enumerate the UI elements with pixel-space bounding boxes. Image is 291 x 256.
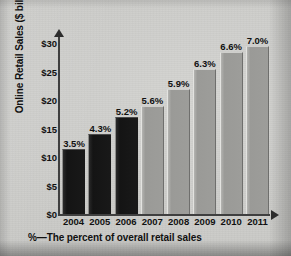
y-tick-label: $25 <box>27 66 57 77</box>
bar-2011: 7.0% <box>246 46 269 214</box>
x-tick-label: 2008 <box>167 216 190 227</box>
y-axis-tick-labels: $30 $25 $20 $15 $10 $5 $0 <box>25 0 57 256</box>
x-tick-label: 2005 <box>88 216 111 227</box>
y-axis-arrow-icon <box>54 29 64 37</box>
bar-data-label: 5.9% <box>168 78 190 89</box>
bar-data-label: 5.6% <box>142 95 164 106</box>
bar-2009: 6.3% <box>193 69 216 214</box>
chart-figure: Online Retail Sales ($ billions) $30 $25… <box>0 0 291 256</box>
bar-2004: 3.5% <box>62 149 85 215</box>
bar-data-label: 6.6% <box>220 41 242 52</box>
bar-data-label: 5.2% <box>116 106 138 117</box>
bar-series: 3.5% 4.3% 5.2% 5.6% 5.9% <box>61 43 270 214</box>
y-axis-line <box>58 35 60 214</box>
plot-area: 3.5% 4.3% 5.2% 5.6% 5.9% <box>61 43 270 214</box>
bar-2007: 5.6% <box>141 106 164 214</box>
bar-data-label: 7.0% <box>247 35 269 46</box>
chart-footnote: %—The percent of overall retail sales <box>28 232 202 243</box>
bar-slot: 4.3% <box>88 43 111 214</box>
y-tick-label: $10 <box>27 152 57 163</box>
bar-data-label: 3.5% <box>63 138 85 149</box>
bar-slot: 5.2% <box>115 43 138 214</box>
x-tick-label: 2010 <box>220 216 243 227</box>
bar-slot: 5.6% <box>141 43 164 214</box>
x-tick-label: 2004 <box>62 216 85 227</box>
bar-data-label: 4.3% <box>89 123 111 134</box>
y-axis-title: Online Retail Sales ($ billions) <box>14 0 25 129</box>
bar-slot: 6.6% <box>220 43 243 214</box>
x-tick-label: 2009 <box>193 216 216 227</box>
bar-data-label: 6.3% <box>194 58 216 69</box>
y-tick-label: $20 <box>27 95 57 106</box>
y-tick-label: $30 <box>27 38 57 49</box>
x-tick-label: 2011 <box>246 216 269 227</box>
y-tick-label: $5 <box>27 180 57 191</box>
bar-2010: 6.6% <box>220 52 243 215</box>
x-axis-arrow-icon <box>271 210 279 220</box>
bar-slot: 7.0% <box>246 43 269 214</box>
bar-slot: 6.3% <box>193 43 216 214</box>
bar-2006: 5.2% <box>115 117 138 214</box>
y-tick-label: $15 <box>27 123 57 134</box>
bar-2005: 4.3% <box>88 134 111 214</box>
bar-slot: 5.9% <box>167 43 190 214</box>
x-tick-label: 2007 <box>141 216 164 227</box>
bar-2008: 5.9% <box>167 89 190 214</box>
y-tick-label: $0 <box>27 209 57 220</box>
x-axis-tick-labels: 2004 2005 2006 2007 2008 2009 2010 2011 <box>61 216 270 227</box>
bar-slot: 3.5% <box>62 43 85 214</box>
x-tick-label: 2006 <box>115 216 138 227</box>
